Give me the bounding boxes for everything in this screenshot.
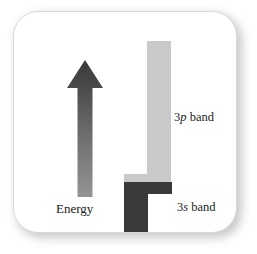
band-3s-label-suffix: band bbox=[188, 200, 215, 214]
band-3p-label-suffix: band bbox=[187, 110, 214, 124]
band-3p-vertical-bar bbox=[147, 41, 171, 181]
energy-label: Energy bbox=[56, 202, 93, 215]
diagram-card: Energy 3p band 3s band bbox=[13, 11, 237, 233]
figure-root: Energy 3p band 3s band bbox=[0, 0, 257, 254]
band-3s-vertical-leg bbox=[124, 182, 148, 233]
band-3p-label: 3p band bbox=[174, 111, 214, 124]
band-3s-label: 3s band bbox=[177, 201, 216, 214]
energy-arrow-icon bbox=[67, 60, 103, 197]
